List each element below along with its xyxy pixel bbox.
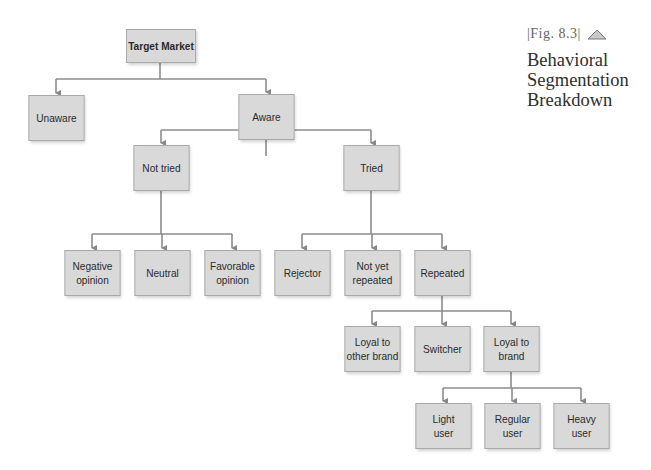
node-label: Rejector [284, 266, 322, 280]
node-label: Aware [252, 110, 281, 124]
figure-number: |Fig. 8.3| [527, 26, 581, 42]
node-negative-opinion: Negative opinion [64, 250, 120, 296]
node-label: Switcher [423, 342, 462, 356]
node-light-user: Light user [415, 403, 471, 449]
segmentation-diagram: Target Market Unaware Aware Not tried Tr… [0, 0, 651, 470]
triangle-icon [587, 28, 607, 40]
node-heavy-user: Heavy user [553, 403, 609, 449]
node-rejector: Rejector [274, 250, 330, 296]
figure-caption: |Fig. 8.3| Behavioral Segmentation Break… [527, 26, 629, 110]
node-label: Loyal to brand [494, 335, 529, 363]
node-regular-user: Regular user [484, 403, 540, 449]
figure-title: Behavioral Segmentation Breakdown [527, 50, 629, 110]
node-loyal-other-brand: Loyal to other brand [344, 326, 400, 372]
node-neutral: Neutral [134, 250, 190, 296]
node-aware: Aware [238, 94, 294, 140]
node-loyal-brand: Loyal to brand [483, 326, 539, 372]
node-label: Unaware [36, 111, 77, 125]
node-label: Light user [433, 412, 455, 440]
node-not-yet-repeated: Not yet repeated [344, 250, 400, 296]
node-not-tried: Not tried [133, 145, 189, 191]
figure-label: |Fig. 8.3| [527, 26, 629, 42]
node-tried: Tried [343, 145, 399, 191]
node-label: Neutral [146, 266, 179, 280]
node-label: Tried [360, 161, 383, 175]
node-label: Not tried [142, 161, 180, 175]
node-label: Repeated [421, 266, 465, 280]
node-favorable-opinion: Favorable opinion [204, 250, 260, 296]
node-label: Regular user [495, 412, 530, 440]
node-label: Negative opinion [73, 259, 113, 287]
node-target-market: Target Market [126, 29, 196, 63]
node-label: Loyal to other brand [347, 335, 399, 363]
node-unaware: Unaware [28, 95, 84, 141]
node-repeated: Repeated [414, 250, 470, 296]
node-label: Target Market [128, 39, 194, 53]
node-label: Favorable opinion [210, 259, 255, 287]
node-switcher: Switcher [414, 326, 470, 372]
node-label: Heavy user [567, 412, 596, 440]
node-label: Not yet repeated [353, 259, 393, 287]
